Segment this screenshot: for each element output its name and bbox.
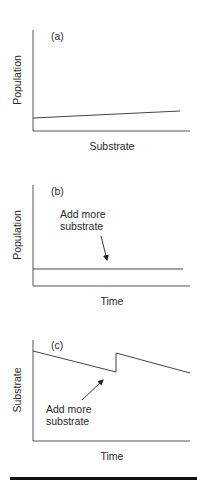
substrate-sawtooth-line <box>33 351 190 373</box>
y-axis-label: Substrate <box>11 367 23 412</box>
figure: (a) Substrate Population (b) Add more su… <box>0 0 197 486</box>
arrow-icon <box>82 380 103 400</box>
annotation-line1: Add more <box>46 403 92 415</box>
panel-c: (c) Add more substrate Time Substrate <box>11 339 190 462</box>
y-axis-label: Population <box>11 210 23 260</box>
x-axis-label: Time <box>101 450 124 462</box>
panel-tag: (c) <box>51 339 63 351</box>
population-line <box>33 111 180 118</box>
arrow-icon <box>101 236 107 260</box>
bottom-rule <box>10 477 197 480</box>
panel-b: (b) Add more substrate Time Population <box>11 185 190 307</box>
y-axis-label: Population <box>11 55 23 105</box>
x-axis-label: Time <box>101 295 124 307</box>
panel-tag: (a) <box>51 30 64 42</box>
x-axis-label: Substrate <box>90 140 135 152</box>
panel-a: (a) Substrate Population <box>11 30 190 152</box>
annotation-line2: substrate <box>60 220 103 232</box>
annotation-line2: substrate <box>46 415 89 427</box>
annotation-line1: Add more <box>60 208 106 220</box>
panel-tag: (b) <box>51 185 64 197</box>
